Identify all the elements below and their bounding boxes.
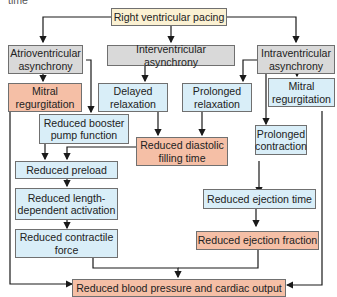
- node-right-ventricular-pacing: Right ventricular pacing: [111, 8, 227, 26]
- node-intraventricular-asynchrony: Intraventricular asynchrony: [257, 45, 335, 74]
- node-reduced-blood-pressure-and-cardiac-output: Reduced blood pressure and cardiac outpu…: [72, 279, 286, 297]
- node-mitral-regurgitation-left: Mitral regurgitation: [8, 83, 82, 112]
- node-prolonged-relaxation: Prolonged relaxation: [182, 83, 252, 112]
- node-reduced-ejection-time: Reduced ejection time: [203, 189, 316, 209]
- flowchart: time: [0, 0, 337, 297]
- node-reduced-contractile-force: Reduced contractile force: [15, 229, 118, 258]
- node-atrioventricular-asynchrony: Atrioventricular asynchrony: [8, 45, 83, 74]
- node-interventricular-asynchrony: Interventricular asynchrony: [107, 45, 235, 66]
- node-reduced-booster-pump-function: Reduced booster pump function: [39, 114, 129, 144]
- node-prolonged-contraction: Prolonged contraction: [255, 125, 307, 155]
- node-mitral-regurgitation-right: Mitral regurgitation: [268, 78, 335, 107]
- node-reduced-diastolic-filling-time: Reduced diastolic filling time: [136, 137, 228, 166]
- node-reduced-preload: Reduced preload: [15, 161, 118, 179]
- node-reduced-length-dependent-activation: Reduced length-dependent activation: [15, 188, 118, 220]
- node-delayed-relaxation: Delayed relaxation: [98, 83, 168, 112]
- node-reduced-ejection-fraction: Reduced ejection fraction: [196, 231, 319, 250]
